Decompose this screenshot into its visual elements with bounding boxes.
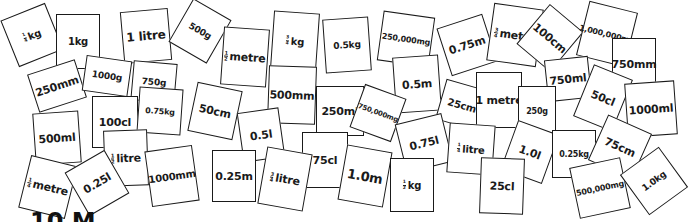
fraction-denominator: 2 <box>403 186 406 190</box>
card-value: 0.25m <box>215 170 253 183</box>
fraction-denominator: 4 <box>269 177 273 182</box>
measurement-card[interactable]: 500,000mg <box>569 157 631 219</box>
card-value: 500,000mg <box>575 179 625 198</box>
card-label: 100cm <box>531 20 570 56</box>
fraction-denominator: 4 <box>494 33 498 38</box>
measurement-card[interactable]: 25cl <box>479 157 525 215</box>
card-value: 750ml <box>549 71 587 88</box>
card-value: 250,000mg <box>381 31 430 47</box>
card-label: 500ml <box>38 130 76 146</box>
card-value: litre <box>462 143 485 156</box>
card-label: 750mm <box>612 58 657 71</box>
fraction-denominator: 4 <box>24 38 28 43</box>
card-label: 250mm <box>34 73 81 99</box>
card-label: 100cl <box>99 116 131 129</box>
card-value: 50cm <box>198 101 232 120</box>
measurement-card[interactable]: 1 litre <box>120 8 172 64</box>
fraction-denominator: 2 <box>224 56 228 61</box>
card-value: 50cl <box>589 87 617 108</box>
card-value: 0.5l <box>249 127 273 143</box>
fraction: 34 <box>286 36 290 46</box>
card-label: 250,000mg <box>381 31 430 47</box>
fraction: 34 <box>269 171 274 182</box>
card-label: 50cl <box>589 87 617 108</box>
measurement-cards-sheet: 14kg1kg1 litre250mm1000g500g750g12metre3… <box>0 0 696 222</box>
card-value: kg <box>26 26 43 41</box>
measurement-card[interactable]: 12kg <box>390 158 434 212</box>
card-value: 100cm <box>531 20 570 56</box>
card-label: 0.5kg <box>333 39 361 51</box>
card-value: litre <box>274 171 301 188</box>
card-label: 500g <box>187 21 213 42</box>
card-value: 500ml <box>38 130 76 146</box>
card-value: 1kg <box>68 36 88 47</box>
fraction: 34 <box>494 27 499 38</box>
fraction: 14 <box>457 143 461 153</box>
card-label: 1000g <box>91 69 123 83</box>
card-label: 750,000mg <box>357 102 400 124</box>
card-label: 0.75m <box>447 33 487 57</box>
card-value: 0.75l <box>408 133 440 153</box>
card-value: 0.5m <box>402 76 433 91</box>
measurement-card[interactable]: 34litre <box>257 146 312 211</box>
card-label: 75cm <box>603 134 638 159</box>
card-label: 0.25l <box>81 170 113 196</box>
card-value: 1 litre <box>126 27 166 44</box>
measurement-card[interactable]: 12metre <box>220 26 270 87</box>
fraction-denominator: 4 <box>27 182 31 187</box>
fraction-denominator: 4 <box>286 41 289 45</box>
card-value: 750mm <box>612 58 657 71</box>
card-value: kg <box>408 180 421 191</box>
card-label: 34litre <box>269 170 301 188</box>
card-value: 0.75m <box>447 33 487 57</box>
card-label: 12kg <box>403 180 421 191</box>
card-value: 500g <box>187 21 213 42</box>
card-value: 75cl <box>313 154 338 167</box>
card-label: 1kg <box>68 36 88 47</box>
card-label: 0.5l <box>249 127 273 143</box>
card-label: 0.25m <box>215 170 253 183</box>
measurement-card[interactable]: 14kg <box>0 3 63 67</box>
measurement-card[interactable]: 1000mm <box>144 145 199 207</box>
card-value: 500mm <box>269 88 314 103</box>
card-value: metre <box>229 49 266 64</box>
card-value: 1.0m <box>346 166 384 187</box>
card-label: 250g <box>526 107 548 116</box>
measurement-card[interactable]: 34kg <box>270 10 320 71</box>
card-label: 1 metre <box>475 94 522 107</box>
measurement-card[interactable]: 0.5kg <box>322 16 372 73</box>
card-label: 500mm <box>269 88 314 103</box>
card-label: 1000ml <box>628 101 673 117</box>
card-label: 0.75kg <box>145 105 175 116</box>
card-label: 1000mm <box>148 167 197 185</box>
card-label: 12litre <box>111 151 141 165</box>
card-value: metre <box>31 177 69 198</box>
card-label: 0.5m <box>402 76 433 91</box>
card-value: 0.75kg <box>145 105 175 116</box>
card-value: litre <box>116 151 141 165</box>
card-value: 1000mm <box>148 167 197 185</box>
card-label: 34kg <box>285 35 304 47</box>
measurement-card[interactable]: 50cm <box>187 82 242 140</box>
card-value: 25cm <box>446 96 477 115</box>
measurement-card[interactable]: 1 metre <box>476 72 522 128</box>
card-label: 14kg <box>21 26 42 43</box>
card-value: 25cl <box>489 179 514 193</box>
card-value: 250mm <box>34 73 81 99</box>
card-value: kg <box>290 35 304 47</box>
card-value: 1000ml <box>628 101 673 117</box>
measurement-card[interactable]: 1.0m <box>337 144 392 207</box>
card-label: 1 litre <box>126 27 166 44</box>
card-label: 14metre <box>26 176 69 199</box>
card-label: 750ml <box>549 71 587 88</box>
card-label: 75cl <box>313 154 338 167</box>
measurement-card[interactable]: 0.75kg <box>136 87 183 136</box>
card-label: 0.25kg <box>559 150 589 159</box>
card-value: 750,000mg <box>357 102 400 124</box>
measurement-card[interactable]: 0.25m <box>212 150 256 202</box>
card-label: 1.0kg <box>640 169 668 193</box>
card-value: 1 metre <box>475 94 522 107</box>
card-label: 0.75l <box>408 133 440 153</box>
measurement-card[interactable]: 1000g <box>82 55 133 97</box>
card-label: 50cm <box>198 101 232 120</box>
